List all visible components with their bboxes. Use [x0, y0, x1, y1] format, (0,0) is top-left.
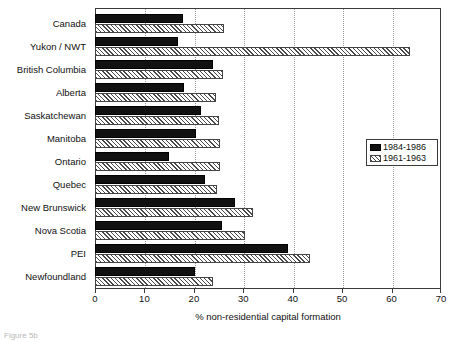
category-label-pei: PEI	[71, 249, 86, 259]
category-axis-labels: Canada Yukon / NWT British Columbia Albe…	[0, 8, 90, 289]
chart-container: Canada Yukon / NWT British Columbia Albe…	[0, 0, 461, 343]
tick-label-40: 40	[278, 293, 308, 304]
bar-saskatchewan-1961-1963	[95, 116, 219, 125]
category-label-newfoundland: Newfoundland	[25, 272, 86, 282]
tick-label-70: 70	[426, 293, 456, 304]
legend-swatch-hatch-icon	[370, 155, 381, 162]
bar-canada-1961-1963	[95, 24, 224, 33]
legend-entry-1984-1986: 1984-1986	[370, 142, 434, 153]
bar-pei-1961-1963	[95, 254, 310, 263]
tick-label-0: 0	[80, 293, 110, 304]
bar-quebec-1984-1986	[95, 175, 205, 184]
bar-nova-scotia-1961-1963	[95, 231, 245, 240]
bar-alberta-1961-1963	[95, 93, 216, 102]
bar-ontario-1961-1963	[95, 162, 220, 171]
category-label-canada: Canada	[53, 19, 86, 29]
legend-label-1961-1963: 1961-1963	[383, 154, 426, 163]
category-label-saskatchewan: Saskatchewan	[24, 111, 86, 121]
bar-ontario-1984-1986	[95, 152, 169, 161]
bar-yukon-nwt-1961-1963	[95, 47, 410, 56]
tick-label-60: 60	[377, 293, 407, 304]
x-axis-tick-labels: 0 10 20 30 40 50 60 70	[0, 293, 461, 307]
category-label-british-columbia: British Columbia	[17, 65, 86, 75]
tick-label-50: 50	[327, 293, 357, 304]
category-label-nova-scotia: Nova Scotia	[35, 226, 86, 236]
category-label-yukon-nwt: Yukon / NWT	[30, 42, 86, 52]
x-axis-title: % non-residential capital formation	[95, 311, 441, 322]
tick-label-30: 30	[228, 293, 258, 304]
category-label-manitoba: Manitoba	[47, 134, 86, 144]
category-label-ontario: Ontario	[55, 157, 86, 167]
bar-manitoba-1961-1963	[95, 139, 220, 148]
bar-newfoundland-1984-1986	[95, 267, 195, 276]
legend-swatch-solid-icon	[370, 144, 381, 151]
figure-caption-remnant: Figure 5b	[4, 331, 38, 340]
category-label-quebec: Quebec	[53, 180, 86, 190]
bar-new-brunswick-1961-1963	[95, 208, 253, 217]
chart-legend: 1984-1986 1961-1963	[366, 139, 438, 166]
bar-british-columbia-1961-1963	[95, 70, 223, 79]
bar-newfoundland-1961-1963	[95, 277, 213, 286]
bar-new-brunswick-1984-1986	[95, 198, 235, 207]
bar-nova-scotia-1984-1986	[95, 221, 222, 230]
bar-manitoba-1984-1986	[95, 129, 196, 138]
bar-canada-1984-1986	[95, 14, 183, 23]
bar-quebec-1961-1963	[95, 185, 217, 194]
bar-yukon-nwt-1984-1986	[95, 37, 178, 46]
legend-entry-1961-1963: 1961-1963	[370, 153, 434, 164]
tick-label-10: 10	[129, 293, 159, 304]
category-label-new-brunswick: New Brunswick	[21, 203, 86, 213]
category-label-alberta: Alberta	[56, 88, 86, 98]
legend-label-1984-1986: 1984-1986	[383, 143, 426, 152]
tick-label-20: 20	[179, 293, 209, 304]
bar-british-columbia-1984-1986	[95, 60, 213, 69]
bar-pei-1984-1986	[95, 244, 288, 253]
bar-alberta-1984-1986	[95, 83, 184, 92]
bar-saskatchewan-1984-1986	[95, 106, 201, 115]
